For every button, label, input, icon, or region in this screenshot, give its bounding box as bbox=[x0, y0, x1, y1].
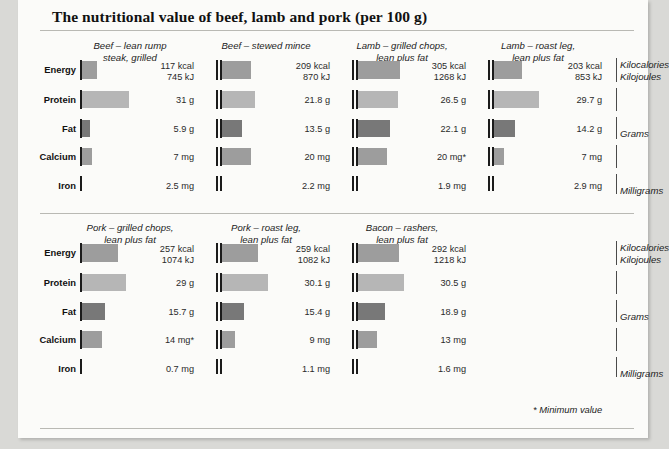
column-header-line1: Pork – grilled chops, bbox=[66, 222, 194, 234]
chart-cell: 7 mg bbox=[80, 147, 216, 166]
cell-value-line2: 1082 kJ bbox=[216, 255, 330, 266]
cell-value: 18.9 g bbox=[352, 307, 466, 317]
chart-cell: 257 kcal1074 kJ bbox=[80, 243, 216, 263]
cell-value: 13.5 g bbox=[216, 124, 330, 134]
chart-cell: 1.6 mg bbox=[352, 359, 488, 374]
cell-value-line2: 1074 kJ bbox=[80, 255, 194, 266]
chart-cell: 259 kcal1082 kJ bbox=[216, 243, 352, 263]
legend-rule bbox=[616, 357, 617, 377]
cell-value-line1: 15.7 g bbox=[80, 307, 194, 317]
column-header: Beef – stewed mince bbox=[202, 40, 330, 52]
cell-value-line1: 31 g bbox=[80, 95, 194, 105]
cell-value-line1: 2.9 mg bbox=[488, 181, 602, 191]
cell-value-line2: 1268 kJ bbox=[352, 72, 466, 83]
cell-value-line1: 0.7 mg bbox=[80, 364, 194, 374]
cell-value: 30.5 g bbox=[352, 278, 466, 288]
chart-cell: 31 g bbox=[80, 90, 216, 109]
legend-kilojoules: Kilojoules bbox=[620, 71, 669, 83]
chart-cell: 15.4 g bbox=[216, 302, 352, 321]
legend-energy-units: KilocaloriesKilojoules bbox=[620, 242, 669, 265]
row-label-iron: Iron bbox=[18, 363, 76, 374]
section-divider bbox=[40, 213, 634, 214]
cell-value-line1: 259 kcal bbox=[216, 244, 330, 255]
chart-cell: 1.9 mg bbox=[352, 176, 488, 191]
cell-value: 26.5 g bbox=[352, 95, 466, 105]
cell-value: 2.5 mg bbox=[80, 181, 194, 191]
row-label-iron: Iron bbox=[18, 180, 76, 191]
column-header-line1: Beef – stewed mince bbox=[202, 40, 330, 52]
cell-value-line1: 18.9 g bbox=[352, 307, 466, 317]
legend-rule bbox=[616, 88, 617, 111]
chart-cell: 14.2 g bbox=[488, 119, 624, 138]
legend-rule bbox=[616, 117, 617, 140]
cell-value-line1: 7 mg bbox=[80, 152, 194, 162]
column-header-line1: Pork – roast leg, bbox=[202, 222, 330, 234]
cell-value: 203 kcal853 kJ bbox=[488, 61, 602, 83]
legend-rule bbox=[616, 271, 617, 294]
chart-cell: 20 mg* bbox=[352, 147, 488, 166]
chart-cell: 292 kcal1218 kJ bbox=[352, 243, 488, 263]
cell-value: 209 kcal870 kJ bbox=[216, 61, 330, 83]
cell-value: 30.1 g bbox=[216, 278, 330, 288]
cell-value-line1: 2.2 mg bbox=[216, 181, 330, 191]
cell-value: 13 mg bbox=[352, 335, 466, 345]
chart-cell: 29 g bbox=[80, 273, 216, 292]
chart-cell: 2.9 mg bbox=[488, 176, 624, 191]
cell-value-line1: 29 g bbox=[80, 278, 194, 288]
chart-cell: 209 kcal870 kJ bbox=[216, 60, 352, 80]
cell-value-line1: 292 kcal bbox=[352, 244, 466, 255]
row-label-protein: Protein bbox=[18, 94, 76, 105]
cell-value-line2: 853 kJ bbox=[488, 72, 602, 83]
chart-cell: 0.7 mg bbox=[80, 359, 216, 374]
chart-cell: 305 kcal1268 kJ bbox=[352, 60, 488, 80]
chart-cell: 117 kcal745 kJ bbox=[80, 60, 216, 80]
cell-value: 2.9 mg bbox=[488, 181, 602, 191]
cell-value-line1: 14.2 g bbox=[488, 124, 602, 134]
legend-kilocalories: Kilocalories bbox=[620, 59, 669, 71]
column-header: Pork – roast leg,lean plus fat bbox=[202, 222, 330, 245]
cell-value-line1: 30.1 g bbox=[216, 278, 330, 288]
cell-value-line1: 15.4 g bbox=[216, 307, 330, 317]
bottom-divider bbox=[40, 428, 634, 429]
cell-value-line1: 20 mg bbox=[216, 152, 330, 162]
chart-cell: 2.5 mg bbox=[80, 176, 216, 191]
cell-value-line1: 257 kcal bbox=[80, 244, 194, 255]
cell-value-line2: 1218 kJ bbox=[352, 255, 466, 266]
cell-value: 1.1 mg bbox=[216, 364, 330, 374]
cell-value: 259 kcal1082 kJ bbox=[216, 244, 330, 266]
legend-kilojoules: Kilojoules bbox=[620, 254, 669, 266]
chart-cell: 21.8 g bbox=[216, 90, 352, 109]
chart-cell: 20 mg bbox=[216, 147, 352, 166]
chart-cell: 18.9 g bbox=[352, 302, 488, 321]
cell-value: 14.2 g bbox=[488, 124, 602, 134]
chart-cell: 1.1 mg bbox=[216, 359, 352, 374]
chart-cell: 13.5 g bbox=[216, 119, 352, 138]
chart-cell: 22.1 g bbox=[352, 119, 488, 138]
row-label-fat: Fat bbox=[18, 123, 76, 134]
row-label-fat: Fat bbox=[18, 306, 76, 317]
chart-cell: 5.9 g bbox=[80, 119, 216, 138]
chart-cell: 30.1 g bbox=[216, 273, 352, 292]
cell-value-line1: 13.5 g bbox=[216, 124, 330, 134]
row-label-calcium: Calcium bbox=[18, 151, 76, 162]
cell-value-line2: 870 kJ bbox=[216, 72, 330, 83]
cell-value-line2: 745 kJ bbox=[80, 72, 194, 83]
cell-value-line1: 30.5 g bbox=[352, 278, 466, 288]
chart-card: The nutritional value of beef, lamb and … bbox=[18, 0, 648, 438]
legend-grams: Grams bbox=[620, 128, 649, 140]
cell-value: 20 mg* bbox=[352, 152, 466, 162]
cell-value-line1: 2.5 mg bbox=[80, 181, 194, 191]
cell-value: 21.8 g bbox=[216, 95, 330, 105]
chart-cell: 14 mg* bbox=[80, 330, 216, 349]
cell-value: 20 mg bbox=[216, 152, 330, 162]
legend-rule bbox=[616, 58, 617, 82]
cell-value-line1: 117 kcal bbox=[80, 61, 194, 72]
cell-value-line1: 29.7 g bbox=[488, 95, 602, 105]
cell-value: 257 kcal1074 kJ bbox=[80, 244, 194, 266]
cell-value-line1: 9 mg bbox=[216, 335, 330, 345]
legend-grams: Grams bbox=[620, 311, 649, 323]
row-label-energy: Energy bbox=[18, 64, 76, 75]
legend-rule bbox=[616, 145, 617, 168]
legend-rule bbox=[616, 328, 617, 351]
